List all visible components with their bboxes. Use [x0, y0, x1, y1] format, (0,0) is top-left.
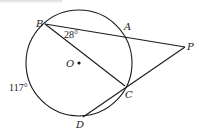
chord-bc: [45, 24, 125, 86]
label-p: P: [186, 41, 194, 52]
label-c: C: [125, 89, 133, 100]
secant-dcp: [83, 47, 185, 117]
center-point-o: [77, 61, 80, 64]
label-d: D: [75, 119, 84, 130]
angle-b-measure: 28°: [64, 29, 78, 40]
arc-bd-measure: 117°: [9, 82, 28, 93]
label-a: A: [123, 21, 131, 32]
label-b: B: [35, 18, 43, 29]
label-o: O: [66, 58, 74, 69]
geometry-diagram: B A P C D O 28° 117°: [0, 0, 199, 133]
